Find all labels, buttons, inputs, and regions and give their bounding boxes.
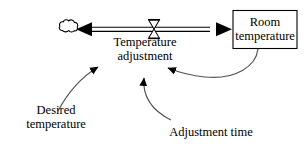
- variable-label-desired-temperature: Desired temperature: [8, 104, 104, 131]
- flow-arrow-right-icon: [216, 22, 232, 36]
- variable-label-adjustment-time: Adjustment time: [148, 126, 274, 140]
- flow-arrow-left-icon: [76, 22, 92, 36]
- stock-label-room-temperature: Room temperature: [233, 11, 297, 48]
- flow-pipe: [89, 27, 210, 31]
- stock-flow-diagram: Room temperature Temperature adjustment …: [0, 0, 308, 146]
- cloud-icon: [59, 20, 78, 32]
- flow-label-temperature-adjustment: Temperature adjustment: [96, 36, 194, 63]
- link-adjustment-time-to-flow: [144, 78, 171, 120]
